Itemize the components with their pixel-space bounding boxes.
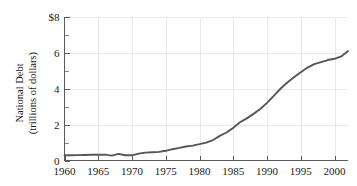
chart-canvas: 0246$8 196019651970197519801985199019952… (0, 0, 357, 186)
y-axis-title-line-2: (trillions of dollars) (27, 51, 39, 134)
y-axis-tick-label: $8 (49, 11, 61, 23)
x-axis-tick-label: 1980 (189, 165, 212, 177)
y-axis-ticks-group (65, 18, 70, 162)
x-axis-tick-label: 1985 (222, 165, 245, 177)
y-axis-tick-label: 4 (54, 83, 60, 95)
debt-line-path (65, 51, 349, 156)
y-axis-tick-label: 6 (54, 47, 60, 59)
x-axis-tick-label: 1995 (290, 165, 313, 177)
x-axis-tick-label: 2000 (324, 165, 347, 177)
y-axis-tick-labels-group: 0246$8 (49, 11, 61, 167)
y-axis-tick-label: 2 (54, 119, 60, 131)
national-debt-chart: 0246$8 196019651970197519801985199019952… (0, 0, 357, 186)
x-axis-ticks-group (66, 156, 336, 161)
axis-lines-group (64, 17, 348, 161)
x-axis-tick-label: 1975 (155, 165, 178, 177)
x-axis-tick-label: 1970 (121, 165, 144, 177)
x-axis-tick-label: 1990 (256, 165, 279, 177)
data-series-group (65, 51, 349, 156)
gridlines-group (65, 17, 349, 161)
y-axis-title-group: National Debt (trillions of dollars) (14, 51, 39, 134)
x-axis-tick-label: 1965 (87, 165, 110, 177)
x-axis-tick-label: 1960 (54, 165, 77, 177)
y-axis-title-line-1: National Debt (14, 63, 25, 122)
x-axis-tick-labels-group: 196019651970197519801985199019952000 (54, 165, 347, 177)
